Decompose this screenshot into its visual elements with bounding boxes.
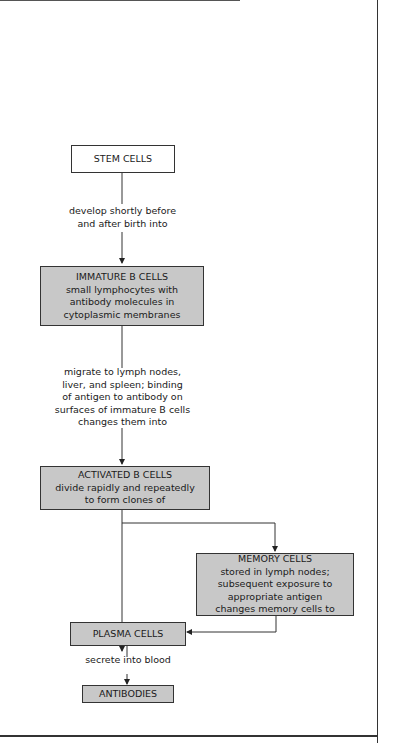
- node-desc-line: divide rapidly and repeatedly: [55, 482, 195, 495]
- node-immature-b-cells: IMMATURE B CELLS small lymphocytes with …: [40, 266, 204, 326]
- edge-label-line: changes them into: [30, 416, 215, 429]
- node-desc-line: changes memory cells to: [215, 603, 335, 616]
- node-desc-line: small lymphocytes with: [66, 284, 178, 297]
- node-desc-line: stored in lymph nodes;: [220, 566, 329, 579]
- edge-label-stem-to-immature: develop shortly before and after birth i…: [40, 205, 205, 230]
- edge-label-line: develop shortly before: [40, 205, 205, 218]
- node-memory-cells: MEMORY CELLS stored in lymph nodes; subs…: [196, 553, 354, 616]
- edge-label-line: secrete into blood: [70, 654, 186, 667]
- node-title: ANTIBODIES: [99, 688, 157, 701]
- node-plasma-cells: PLASMA CELLS: [70, 622, 186, 646]
- edge-label-line: liver, and spleen; binding: [30, 379, 215, 392]
- node-title: PLASMA CELLS: [93, 628, 164, 641]
- edge-label-line: of antigen to antibody on: [30, 391, 215, 404]
- node-stem-cells: STEM CELLS: [71, 145, 175, 173]
- edge-label-line: and after birth into: [40, 218, 205, 231]
- node-title: MEMORY CELLS: [238, 553, 312, 566]
- node-title: IMMATURE B CELLS: [76, 271, 168, 284]
- edge-label-line: surfaces of immature B cells: [30, 404, 215, 417]
- edge-label-immature-to-activated: migrate to lymph nodes, liver, and splee…: [30, 366, 215, 429]
- edge-label-plasma-to-antibodies: secrete into blood: [70, 654, 186, 667]
- edge-label-line: migrate to lymph nodes,: [30, 366, 215, 379]
- node-desc-line: subsequent exposure to: [218, 578, 333, 591]
- node-activated-b-cells: ACTIVATED B CELLS divide rapidly and rep…: [40, 466, 210, 510]
- node-antibodies: ANTIBODIES: [82, 685, 174, 703]
- node-title: STEM CELLS: [94, 153, 152, 166]
- node-desc-line: appropriate antigen: [228, 591, 322, 604]
- node-desc-line: cytoplasmic membranes: [64, 309, 181, 322]
- node-desc-line: antibody molecules in: [70, 296, 175, 309]
- node-desc-line: to form clones of: [85, 494, 165, 507]
- node-title: ACTIVATED B CELLS: [78, 469, 172, 482]
